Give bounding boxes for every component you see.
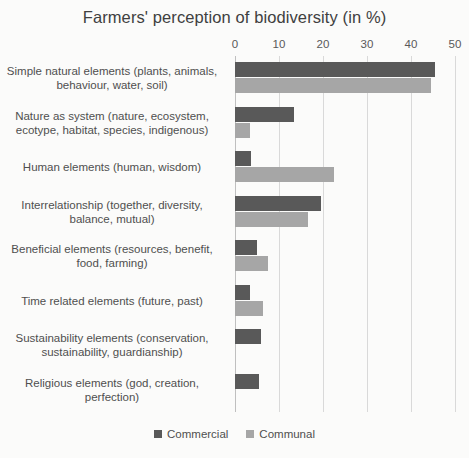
bar-commercial xyxy=(235,374,259,389)
bar-commercial xyxy=(235,240,257,255)
chart-legend: CommercialCommunal xyxy=(0,428,469,440)
category-label: Simple natural elements (plants, animals… xyxy=(0,64,224,92)
legend-label: Commercial xyxy=(167,428,228,440)
x-tick-label-20: 20 xyxy=(317,38,330,50)
bar-commercial xyxy=(235,107,294,122)
legend-swatch-icon xyxy=(154,430,162,438)
category-label: Time related elements (future, past) xyxy=(0,294,224,308)
x-tick-label-0: 0 xyxy=(232,38,238,50)
bar-commercial xyxy=(235,285,250,300)
bar-communal xyxy=(235,212,308,227)
bar-communal xyxy=(235,123,250,138)
bar-commercial xyxy=(235,196,321,211)
bar-group xyxy=(235,368,455,413)
legend-item-commercial[interactable]: Commercial xyxy=(154,428,228,440)
x-tick-label-30: 30 xyxy=(361,38,374,50)
bar-communal xyxy=(235,256,268,271)
bar-communal xyxy=(235,301,263,316)
bar-commercial xyxy=(235,62,435,77)
bar-communal xyxy=(235,78,431,93)
legend-swatch-icon xyxy=(246,430,254,438)
plot-area xyxy=(235,56,455,412)
bar-commercial xyxy=(235,151,251,166)
bar-group xyxy=(235,56,455,101)
bar-commercial xyxy=(235,329,261,344)
bar-communal xyxy=(235,167,334,182)
category-label: Religious elements (god, creation, perfe… xyxy=(0,376,224,404)
x-tick-label-50: 50 xyxy=(449,38,462,50)
x-tick-label-40: 40 xyxy=(405,38,418,50)
chart-title: Farmers' perception of biodiversity (in … xyxy=(0,8,469,27)
bar-group xyxy=(235,145,455,190)
legend-label: Communal xyxy=(259,428,315,440)
gridline-50 xyxy=(455,56,456,412)
bar-group xyxy=(235,279,455,324)
x-axis-tick-labels: 01020304050 xyxy=(0,38,469,54)
bar-group xyxy=(235,101,455,146)
category-label: Nature as system (nature, ecosystem, eco… xyxy=(0,109,224,137)
y-axis-category-labels: Simple natural elements (plants, animals… xyxy=(0,56,231,412)
category-label: Interrelationship (together, diversity, … xyxy=(0,198,224,226)
category-label: Sustainability elements (conservation, s… xyxy=(0,331,224,359)
x-tick-label-10: 10 xyxy=(273,38,286,50)
legend-item-communal[interactable]: Communal xyxy=(246,428,315,440)
bar-group xyxy=(235,190,455,235)
category-label: Human elements (human, wisdom) xyxy=(0,160,224,174)
bar-group xyxy=(235,234,455,279)
category-label: Beneficial elements (resources, benefit,… xyxy=(0,242,224,270)
bar-chart: Farmers' perception of biodiversity (in … xyxy=(0,0,469,458)
bar-group xyxy=(235,323,455,368)
